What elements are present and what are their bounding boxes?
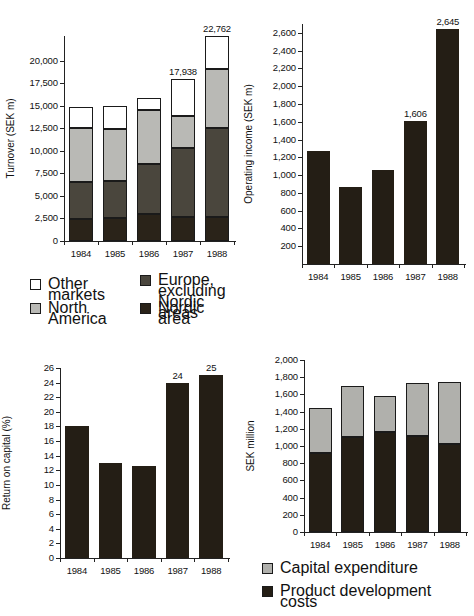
x-tick	[228, 558, 229, 562]
bar-segment-north_america	[103, 129, 127, 181]
y-tick-label: 2,500	[16, 212, 58, 223]
bar-segment-product_development	[406, 436, 429, 532]
bar-segment-nordic	[69, 219, 93, 241]
bar-segment-nordic	[205, 217, 229, 241]
y-tick	[300, 377, 304, 378]
y-tick	[298, 193, 302, 194]
y-tick-label: 2,400	[254, 45, 296, 56]
y-tick-label: 0	[16, 235, 58, 246]
y-tick-label: 16	[12, 435, 54, 446]
y-tick-label: 10,000	[16, 145, 58, 156]
x-tick-label: 1985	[94, 565, 128, 576]
chart-operating-income: 2004006008001,0001,2001,4001,6001,8002,0…	[240, 0, 474, 300]
bar-1984	[307, 24, 330, 264]
y-tick-label: 800	[256, 457, 298, 468]
x-tick-label: 1984	[64, 248, 98, 259]
legend-item: Capital expenditure	[262, 562, 462, 574]
y-tick	[56, 441, 60, 442]
y-tick	[298, 246, 302, 247]
bar-body	[339, 187, 362, 264]
bar-body	[65, 426, 89, 558]
bar-1984	[69, 36, 93, 241]
bar-body	[199, 375, 223, 558]
bar-segment-capital_expenditure	[406, 383, 429, 435]
y-tick-label: 1,600	[254, 116, 296, 127]
x-tick	[334, 264, 335, 268]
x-tick-label: 1988	[194, 565, 228, 576]
y-tick-label: 200	[254, 240, 296, 251]
bar-1984	[65, 368, 89, 558]
y-tick-label: 2	[12, 537, 54, 548]
y-tick-label: 2,000	[254, 80, 296, 91]
y-tick	[300, 446, 304, 447]
y-tick	[60, 218, 64, 219]
x-tick-label: 1986	[127, 565, 161, 576]
bar-body	[372, 170, 395, 264]
y-tick-label: 200	[256, 509, 298, 520]
x-tick-label: 1988	[432, 271, 464, 282]
legend-label: Nordic area	[158, 302, 240, 324]
bar-1985	[341, 360, 364, 532]
legend-swatch-product_development	[262, 586, 273, 597]
y-tick-label: 0	[256, 526, 298, 537]
y-axis-line	[302, 24, 303, 264]
legend-item: North America	[30, 302, 140, 324]
y-tick	[300, 480, 304, 481]
x-tick	[64, 241, 65, 245]
y-tick-label: 1,200	[254, 151, 296, 162]
x-tick	[200, 241, 201, 245]
bar-1988	[438, 360, 461, 532]
x-tick	[194, 558, 195, 562]
y-tick	[300, 498, 304, 499]
y-tick-label: 2,000	[256, 354, 298, 365]
bar-segment-product_development	[374, 432, 397, 532]
y-tick-label: 1,000	[254, 169, 296, 180]
x-tick	[401, 532, 402, 536]
y-tick-label: 1,200	[256, 423, 298, 434]
y-tick	[298, 122, 302, 123]
legend-label: Capital expenditure	[280, 562, 418, 573]
y-tick-label: 1,400	[254, 134, 296, 145]
legend-item: Other markets	[30, 278, 140, 300]
x-tick-label: 1987	[399, 271, 431, 282]
bar-body	[99, 463, 123, 558]
y-tick-label: 26	[12, 362, 54, 373]
bar-1987	[406, 360, 429, 532]
y-tick	[60, 151, 64, 152]
y-tick	[300, 412, 304, 413]
bar-segment-europe	[103, 181, 127, 218]
y-tick-label: 6	[12, 508, 54, 519]
y-tick	[298, 140, 302, 141]
y-axis-title: Return on capital (%)	[1, 368, 12, 558]
y-axis-title: Operating income (SEK m)	[243, 24, 254, 264]
x-axis-line	[60, 558, 230, 559]
bar-segment-nordic	[171, 217, 195, 241]
y-tick	[298, 104, 302, 105]
bar-value-label: 1,606	[388, 108, 443, 119]
chart-sek-million: 02004006008001,0001,2001,4001,6001,8002,…	[240, 340, 474, 616]
bar-segment-europe	[171, 148, 195, 216]
y-tick-label: 5,000	[16, 190, 58, 201]
y-tick-label: 2,600	[254, 27, 296, 38]
bar-1985	[99, 368, 123, 558]
bar-segment-other	[137, 98, 161, 110]
x-tick	[432, 264, 433, 268]
bar-segment-north_america	[137, 110, 161, 164]
chart-turnover: 02,5005,0007,50010,00012,50015,00017,500…	[0, 0, 240, 340]
y-tick	[298, 86, 302, 87]
bar-value-label: 2,645	[420, 16, 474, 27]
y-tick	[56, 412, 60, 413]
y-tick-label: 12,500	[16, 122, 58, 133]
x-tick-label: 1986	[132, 248, 166, 259]
y-tick-label: 4	[12, 523, 54, 534]
x-tick	[132, 241, 133, 245]
y-tick-label: 1,600	[256, 388, 298, 399]
x-tick-label: 1988	[434, 539, 466, 550]
legend-swatch-other	[30, 279, 41, 290]
y-tick	[56, 368, 60, 369]
x-tick-label: 1985	[98, 248, 132, 259]
x-tick-label: 1984	[60, 565, 94, 576]
y-tick	[300, 360, 304, 361]
y-tick	[56, 383, 60, 384]
legend-item: Product development costs	[262, 585, 462, 607]
